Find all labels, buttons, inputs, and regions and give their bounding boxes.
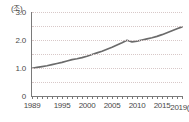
x-axis-tick-mark [177,96,178,99]
x-axis-tick-mark [157,96,158,99]
x-axis-tick-mark [142,96,143,99]
x-axis-tick-mark [92,96,93,99]
x-axis-tick-mark [57,96,58,99]
x-axis-tick-mark [52,96,53,99]
y-axis-tick-label: 2.0 [4,36,26,45]
x-axis-tick-mark [162,96,163,99]
x-axis-tick-label: 1989 [24,101,41,110]
y-axis-tick-label: 3.0 [4,8,26,17]
x-axis-tick-mark [62,96,63,99]
gridline [32,40,182,41]
x-axis-tick-mark [167,96,168,99]
x-axis-tick-mark [117,96,118,99]
x-axis-tick-mark [32,96,33,99]
x-axis-tick-mark [72,96,73,99]
x-axis-tick-mark [127,96,128,99]
x-axis-tick-mark [42,96,43,99]
x-axis-tick-mark [182,96,183,99]
x-axis-tick-mark [102,96,103,99]
plot-area [32,12,182,96]
x-axis-tick-label: 2015 [154,101,171,110]
x-axis-tick-label: 2000 [79,101,96,110]
gridline [32,54,182,55]
x-axis-tick-mark [47,96,48,99]
x-axis-tick-mark [97,96,98,99]
x-axis-tick-labels: 1989199520002005201020152019(년) [0,101,189,115]
x-axis-tick-mark [67,96,68,99]
x-axis-tick-label: 2005 [104,101,121,110]
x-axis-tick-mark [77,96,78,99]
x-axis-tick-mark [37,96,38,99]
x-axis-tick-mark [137,96,138,99]
gridline [32,82,182,83]
x-axis-tick-mark [112,96,113,99]
gridline [32,26,182,27]
gridline [32,68,182,69]
x-axis-tick-label: 2019(년) [170,101,189,112]
x-axis-tick-mark [152,96,153,99]
x-axis-tick-label: 1995 [54,101,71,110]
x-axis-tick-mark [172,96,173,99]
x-axis-tick-mark [132,96,133,99]
x-axis-tick-mark [87,96,88,99]
y-axis-tick-label: 1.0 [4,64,26,73]
x-axis-tick-mark [147,96,148,99]
x-axis-tick-mark [82,96,83,99]
y-axis-tick-label: 0 [4,92,26,101]
x-axis-tick-label: 2010 [129,101,146,110]
line-chart: (조) 3.02.01.00 1989199520002005201020152… [0,0,189,122]
gridline [32,12,182,13]
x-axis-tick-mark [122,96,123,99]
x-axis-ticks [32,96,182,100]
x-axis-tick-mark [107,96,108,99]
